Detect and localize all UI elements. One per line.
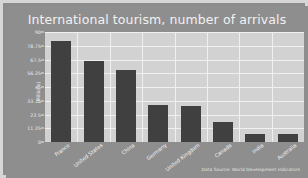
chart-title: International tourism, number of arrival… [6, 12, 308, 27]
y-tick-mark [41, 73, 44, 74]
y-tick-mark [41, 59, 44, 60]
y-tick-mark [41, 114, 44, 115]
y-tick-mark [41, 142, 44, 143]
y-tick-mark [41, 45, 44, 46]
plot-area [45, 32, 304, 142]
x-tick-label-china: China [120, 142, 135, 156]
chart-frame: International tourism, number of arrival… [0, 0, 308, 178]
y-tick-label: 78.75 [27, 43, 41, 48]
y-tick-label: 11.25 [27, 126, 41, 131]
bar-united-states[interactable] [84, 61, 104, 142]
chart-figure: International tourism, number of arrival… [6, 6, 308, 178]
x-tick-label-canada: Canada [213, 142, 232, 159]
y-axis: (Millions) 011.2522.533.754556.2567.578.… [20, 32, 44, 142]
bar-slot [272, 32, 304, 142]
y-tick-mark [41, 32, 44, 33]
bar-slot [77, 32, 109, 142]
y-tick-label: 56.25 [27, 71, 41, 76]
bar-slot [142, 32, 174, 142]
source-annotation: Data Source: World Development Indicator… [202, 167, 301, 172]
bar-united-kingdom[interactable] [181, 106, 201, 142]
x-tick-label-united-states: United States [72, 142, 103, 168]
x-tick-label-united-kingdom: United Kingdom [164, 142, 201, 172]
bar-france[interactable] [51, 41, 71, 142]
y-tick-label: 22.5 [30, 112, 41, 117]
bar-series [45, 32, 304, 142]
bar-india[interactable] [245, 134, 265, 142]
bar-canada[interactable] [213, 122, 233, 142]
bar-slot [45, 32, 77, 142]
x-tick-label-india: India [251, 142, 265, 155]
x-tick-label-germany: Germany [146, 142, 168, 161]
x-tick-label-france: France [54, 142, 71, 157]
y-tick-mark [41, 100, 44, 101]
bar-slot [239, 32, 271, 142]
bar-china[interactable] [116, 70, 136, 142]
bar-slot [207, 32, 239, 142]
y-tick-mark [41, 87, 44, 88]
bar-germany[interactable] [148, 105, 168, 142]
bar-australia[interactable] [278, 134, 298, 142]
y-tick-mark [41, 128, 44, 129]
y-tick-label: 33.75 [27, 98, 41, 103]
bar-slot [110, 32, 142, 142]
x-tick-label-australia: Australia [276, 142, 298, 161]
y-tick-label: 67.5 [30, 57, 41, 62]
bar-slot [175, 32, 207, 142]
